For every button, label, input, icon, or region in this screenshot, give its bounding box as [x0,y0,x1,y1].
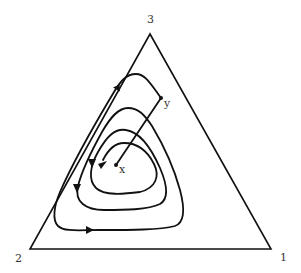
simplex-diagram: 3 2 1 y x [0,0,301,273]
point-label-y: y [163,97,171,110]
vertex-label-2: 2 [15,252,22,265]
simplex-triangle [30,34,271,249]
point-y [159,96,163,100]
point-x [114,163,118,167]
arrowhead-ring-2 [73,184,81,193]
vertex-label-1: 1 [280,251,287,264]
point-label-x: x [119,163,126,176]
arrowhead-ring-3 [88,159,96,168]
vertex-label-3: 3 [147,13,154,26]
arrowhead-innermost [98,161,107,169]
arrowhead-bottom [86,226,94,234]
